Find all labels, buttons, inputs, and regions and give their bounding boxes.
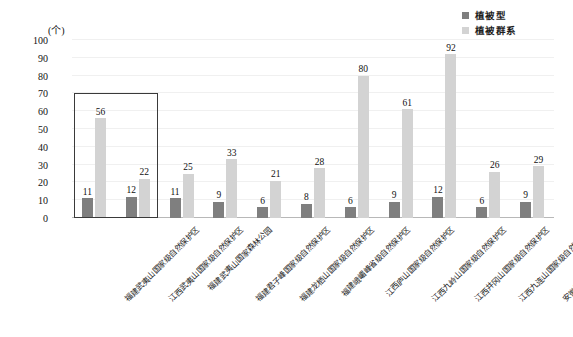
y-axis-tick-70: 70: [18, 88, 48, 99]
bar-vegetation-formation: 33: [226, 159, 237, 218]
x-axis-label: 江西井冈山国家级自然保护区: [472, 224, 551, 303]
legend-label-vegetation-type: 植被型: [475, 8, 506, 22]
bar-group: 621: [247, 40, 291, 218]
bar-vegetation-type: 9: [520, 202, 531, 218]
bar-value-label: 33: [227, 149, 237, 159]
bar-value-label: 26: [490, 161, 500, 171]
y-axis-tick-50: 50: [18, 124, 48, 135]
legend-label-vegetation-formation: 植被群系: [475, 23, 516, 37]
bar-vegetation-formation: 92: [445, 54, 456, 218]
bar-vegetation-type: 8: [301, 204, 312, 218]
bar-value-label: 22: [139, 168, 149, 178]
bar-value-label: 9: [523, 191, 528, 201]
chart-legend: 植被型 植被群系: [462, 8, 568, 38]
bar-value-label: 11: [83, 188, 92, 198]
y-axis-tick-90: 90: [18, 52, 48, 63]
legend-swatch-vegetation-type: [462, 12, 469, 19]
y-axis-unit-label: (个): [48, 22, 65, 37]
bar-group: 929: [510, 40, 554, 218]
bar-vegetation-type: 6: [476, 207, 487, 218]
bar-vegetation-formation: 25: [183, 174, 194, 219]
bar-value-label: 6: [348, 197, 353, 207]
bar-vegetation-type: 12: [126, 197, 137, 218]
bar-group: 1292: [423, 40, 467, 218]
bar-value-label: 80: [359, 65, 369, 75]
bar-vegetation-type: 12: [432, 197, 443, 218]
y-axis-tick-40: 40: [18, 141, 48, 152]
bar-vegetation-formation: 61: [402, 109, 413, 218]
bar-value-label: 28: [315, 158, 325, 168]
bar-vegetation-formation: 21: [270, 181, 281, 218]
bar-value-label: 12: [433, 186, 443, 196]
bar-group: 828: [291, 40, 335, 218]
bar-value-label: 61: [402, 99, 412, 109]
bar-chart-container: 植被型 植被群系 (个) 010203040506070809010011561…: [0, 0, 573, 337]
bar-group: 680: [335, 40, 379, 218]
bar-group: 933: [203, 40, 247, 218]
bar-vegetation-formation: 28: [314, 168, 325, 218]
bar-group: 961: [379, 40, 423, 218]
bar-value-label: 11: [170, 188, 179, 198]
bar-vegetation-type: 11: [82, 198, 93, 218]
bar-value-label: 29: [534, 156, 544, 166]
x-axis-label: 福建武夷山国家级自然保护区: [122, 224, 201, 303]
bar-vegetation-type: 11: [170, 198, 181, 218]
bar-group: 1222: [116, 40, 160, 218]
bar-vegetation-formation: 56: [95, 118, 106, 218]
bar-vegetation-type: 6: [257, 207, 268, 218]
bar-vegetation-type: 6: [345, 207, 356, 218]
bar-vegetation-formation: 29: [533, 166, 544, 218]
y-axis-tick-80: 80: [18, 70, 48, 81]
bar-value-label: 9: [216, 191, 221, 201]
bar-value-label: 56: [96, 108, 106, 118]
y-axis-tick-100: 100: [18, 35, 48, 46]
bar-value-label: 6: [260, 197, 265, 207]
y-axis-tick-0: 0: [18, 213, 48, 224]
legend-item-vegetation-formation: 植被群系: [462, 23, 568, 37]
bar-vegetation-type: 9: [213, 202, 224, 218]
bar-group: 1156: [72, 40, 116, 218]
legend-swatch-vegetation-formation: [462, 27, 469, 34]
bar-vegetation-type: 9: [389, 202, 400, 218]
bar-value-label: 9: [392, 191, 397, 201]
bar-group: 626: [466, 40, 510, 218]
x-axis-labels: 福建武夷山国家级自然保护区江西武夷山国家级自然保护区福建武夷山国家森林公园福建君…: [72, 220, 554, 335]
legend-item-vegetation-type: 植被型: [462, 8, 568, 22]
bar-value-label: 25: [183, 163, 193, 173]
y-axis-tick-10: 10: [18, 195, 48, 206]
bar-value-label: 12: [126, 186, 136, 196]
y-axis-tick-60: 60: [18, 106, 48, 117]
bar-value-label: 6: [479, 197, 484, 207]
plot-area: 0102030405060708090100115612221125933621…: [72, 40, 554, 218]
bar-group: 1125: [160, 40, 204, 218]
bar-value-label: 8: [304, 193, 309, 203]
y-axis-tick-20: 20: [18, 177, 48, 188]
bar-value-label: 21: [271, 170, 281, 180]
bar-vegetation-formation: 80: [358, 76, 369, 218]
bar-vegetation-formation: 22: [139, 179, 150, 218]
y-axis-tick-30: 30: [18, 159, 48, 170]
bar-value-label: 92: [446, 44, 456, 54]
bar-vegetation-formation: 26: [489, 172, 500, 218]
